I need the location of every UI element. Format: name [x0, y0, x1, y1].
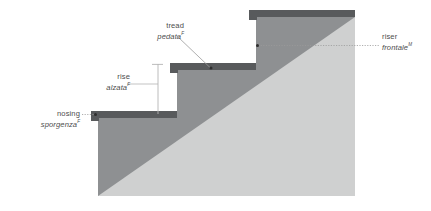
- label-nosing-english: nosing: [12, 110, 80, 119]
- label-riser: riser frontaleM: [382, 33, 430, 52]
- label-nosing-italian-text: sporgenza: [41, 119, 77, 128]
- label-rise-italian: alzataF: [72, 82, 130, 92]
- marker-dot-tread: [210, 67, 213, 70]
- label-riser-english: riser: [382, 33, 430, 42]
- label-rise: rise alzataF: [72, 73, 130, 92]
- tread-slab-bottom-nosing: [91, 111, 99, 121]
- marker-dot-riser: [256, 44, 259, 47]
- diagram-canvas: nosing sporgenzaF rise alzataF tread ped…: [0, 0, 431, 211]
- label-rise-superscript: F: [127, 82, 130, 87]
- label-nosing-italian: sporgenzaF: [12, 119, 80, 129]
- label-riser-italian-text: frontale: [382, 42, 408, 51]
- label-tread-english: tread: [126, 22, 184, 31]
- label-nosing-superscript: F: [77, 119, 80, 124]
- label-tread: tread pedataF: [126, 22, 184, 41]
- label-nosing: nosing sporgenzaF: [12, 110, 80, 129]
- label-riser-superscript: M: [408, 42, 412, 47]
- label-tread-italian: pedataF: [126, 31, 184, 41]
- label-riser-italian: frontaleM: [382, 42, 430, 52]
- tread-slab-middle-nosing: [170, 63, 178, 73]
- tread-slab-top-nosing: [249, 10, 257, 20]
- marker-dot-nosing: [94, 113, 97, 116]
- label-rise-italian-text: alzata: [106, 82, 127, 91]
- label-rise-english: rise: [72, 73, 130, 82]
- label-tread-italian-text: pedata: [157, 31, 181, 40]
- stair-section-illustration: [0, 0, 431, 211]
- label-tread-superscript: F: [181, 31, 184, 36]
